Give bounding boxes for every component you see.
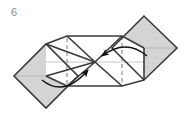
origami-diagram xyxy=(0,0,190,124)
origami-step-figure: 6 xyxy=(0,0,190,124)
